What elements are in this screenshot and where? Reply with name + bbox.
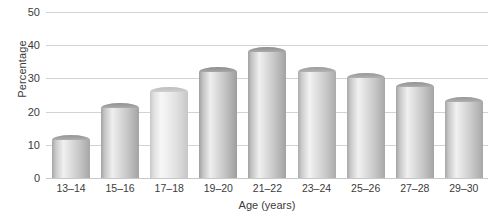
bar bbox=[445, 97, 483, 178]
bar-body bbox=[248, 52, 286, 178]
bar bbox=[396, 82, 434, 178]
y-axis-tick-label: 0 bbox=[34, 172, 40, 184]
bar bbox=[199, 67, 237, 178]
bar-body bbox=[298, 72, 336, 178]
x-axis-tick-label: 29–30 bbox=[439, 182, 489, 194]
bar-body bbox=[396, 87, 434, 178]
bar-body bbox=[347, 78, 385, 178]
y-axis-tick-label: 10 bbox=[28, 139, 40, 151]
bar bbox=[150, 87, 188, 178]
bar-series bbox=[46, 0, 488, 179]
x-axis-title: Age (years) bbox=[46, 199, 488, 211]
bar bbox=[347, 73, 385, 178]
x-axis-tick-label: 25–26 bbox=[341, 182, 391, 194]
x-axis-tick-label: 17–18 bbox=[144, 182, 194, 194]
y-axis-tick-label: 20 bbox=[28, 106, 40, 118]
x-axis-tick-label: 13–14 bbox=[46, 182, 96, 194]
x-axis-tick-label: 21–22 bbox=[242, 182, 292, 194]
x-axis-tick-labels: 13–1415–1617–1819–2021–2223–2425–2627–28… bbox=[46, 182, 488, 198]
bar bbox=[52, 135, 90, 178]
bar bbox=[101, 103, 139, 178]
bar-body bbox=[150, 92, 188, 178]
y-axis-tick-label: 30 bbox=[28, 72, 40, 84]
bar-body bbox=[199, 72, 237, 178]
bar-body bbox=[101, 108, 139, 178]
bar-body bbox=[445, 102, 483, 178]
plot-area: 01020304050 bbox=[46, 0, 488, 179]
bar-body bbox=[52, 140, 90, 178]
x-axis-tick-label: 23–24 bbox=[292, 182, 342, 194]
y-axis-title: Percentage bbox=[16, 9, 28, 129]
x-axis-tick-label: 19–20 bbox=[193, 182, 243, 194]
bar-chart: Percentage 01020304050 13–1415–1617–1819… bbox=[0, 0, 498, 214]
bar bbox=[248, 47, 286, 178]
y-axis-tick-label: 40 bbox=[28, 39, 40, 51]
bar bbox=[298, 67, 336, 178]
x-axis-tick-label: 15–16 bbox=[95, 182, 145, 194]
y-axis-tick-label: 50 bbox=[28, 6, 40, 18]
x-axis-tick-label: 27–28 bbox=[390, 182, 440, 194]
